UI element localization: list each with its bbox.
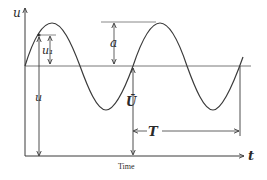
period-label: T xyxy=(148,124,159,139)
mean-label: Ū xyxy=(126,94,138,109)
u1-label: u₁ xyxy=(42,44,54,57)
x-axis-label: t xyxy=(248,148,254,163)
x-axis-caption: Time xyxy=(118,162,135,171)
u-label: u xyxy=(35,91,42,104)
y-axis-label: u xyxy=(13,6,21,20)
signal-diagram: u t Time u₁ u a Ū T xyxy=(0,0,267,180)
amplitude-label: a xyxy=(110,36,117,50)
